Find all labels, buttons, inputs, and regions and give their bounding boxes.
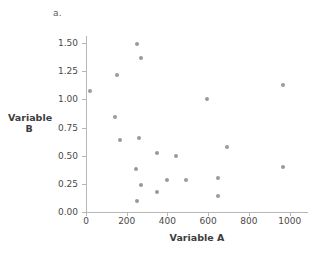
y-tick bbox=[82, 128, 86, 129]
data-point bbox=[115, 73, 119, 77]
y-axis-title-line-1: Variable bbox=[8, 112, 50, 123]
data-point bbox=[88, 89, 92, 93]
y-tick bbox=[82, 156, 86, 157]
data-point bbox=[216, 176, 220, 180]
data-point bbox=[118, 138, 122, 142]
data-point bbox=[165, 178, 169, 182]
y-tick-label: 0.75 bbox=[48, 123, 78, 133]
y-tick-label: 1.00 bbox=[48, 94, 78, 104]
data-point bbox=[134, 167, 138, 171]
data-point bbox=[281, 165, 285, 169]
plot-area: 0.000.250.500.751.001.251.50 02004006008… bbox=[0, 0, 336, 258]
data-point bbox=[225, 145, 229, 149]
x-tick-label: 600 bbox=[200, 216, 217, 226]
y-axis-title: Variable B bbox=[8, 112, 50, 134]
y-tick-label: 1.25 bbox=[48, 66, 78, 76]
scatter-plot-figure: a. 0.000.250.500.751.001.251.50 02004006… bbox=[0, 0, 336, 258]
data-point bbox=[135, 199, 139, 203]
data-point bbox=[174, 154, 178, 158]
x-tick-label: 1000 bbox=[278, 216, 301, 226]
y-tick bbox=[82, 43, 86, 44]
x-axis-line bbox=[86, 212, 308, 213]
y-tick-label: 0.50 bbox=[48, 151, 78, 161]
data-point bbox=[155, 151, 159, 155]
data-point bbox=[205, 97, 209, 101]
data-point bbox=[139, 183, 143, 187]
y-tick-label: 0.00 bbox=[48, 207, 78, 217]
y-tick-label: 1.50 bbox=[48, 38, 78, 48]
x-tick-label: 0 bbox=[83, 216, 89, 226]
data-point bbox=[216, 194, 220, 198]
y-axis-title-line-2: B bbox=[8, 123, 50, 134]
data-point bbox=[139, 56, 143, 60]
data-point bbox=[184, 178, 188, 182]
x-tick-label: 400 bbox=[159, 216, 176, 226]
y-axis-line bbox=[86, 36, 87, 213]
y-tick bbox=[82, 99, 86, 100]
data-point bbox=[281, 83, 285, 87]
x-axis-title: Variable A bbox=[86, 232, 308, 243]
x-tick-label: 200 bbox=[118, 216, 135, 226]
data-point bbox=[113, 115, 117, 119]
y-tick bbox=[82, 71, 86, 72]
x-tick-label: 800 bbox=[240, 216, 257, 226]
data-point bbox=[155, 190, 159, 194]
y-tick-label: 0.25 bbox=[48, 179, 78, 189]
data-point bbox=[135, 42, 139, 46]
y-tick bbox=[82, 184, 86, 185]
data-point bbox=[137, 136, 141, 140]
